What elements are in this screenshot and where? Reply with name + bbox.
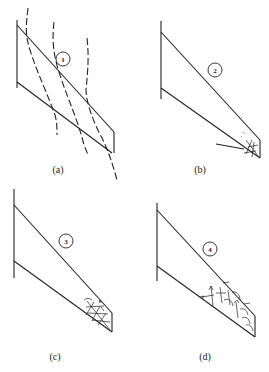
panel-c bbox=[14, 189, 112, 332]
panel-b bbox=[161, 21, 260, 158]
four-panel-diagram: 1 (a) 2 (b) bbox=[0, 0, 269, 372]
stage-number-2: 2 bbox=[213, 67, 217, 75]
panel-label-a: (a) bbox=[52, 164, 63, 176]
panel-label-d: (d) bbox=[199, 351, 211, 363]
stage-number-4: 4 bbox=[208, 246, 212, 254]
panel-label-b: (b) bbox=[194, 164, 206, 176]
panel-a bbox=[17, 8, 117, 180]
stage-number-3: 3 bbox=[64, 238, 68, 246]
stage-number-1: 1 bbox=[61, 56, 65, 64]
panel-label-c: (c) bbox=[49, 351, 60, 363]
panel-d bbox=[157, 203, 255, 337]
